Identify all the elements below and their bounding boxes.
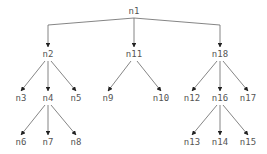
node-n9: n9 (103, 93, 114, 103)
node-n11: n11 (126, 49, 142, 59)
node-n7: n7 (43, 137, 54, 147)
node-n8: n8 (71, 137, 82, 147)
edge-n18-n17 (223, 61, 248, 91)
node-n18: n18 (212, 49, 228, 59)
edge-n11-n10 (137, 61, 161, 91)
node-n12: n12 (184, 93, 200, 103)
edge-n18-n12 (192, 61, 217, 91)
node-n13: n13 (184, 137, 200, 147)
tree-diagram: n1n2n11n18n3n4n5n9n10n12n16n17n6n7n8n13n… (0, 0, 267, 154)
edge-n16-n15 (223, 105, 248, 135)
edge-n2-n3 (21, 61, 45, 91)
node-n1: n1 (129, 6, 140, 16)
edge-n4-n8 (51, 105, 76, 135)
edge-n1-n2 (48, 18, 134, 47)
node-n17: n17 (240, 93, 256, 103)
node-n6: n6 (16, 137, 27, 147)
edges-layer (21, 18, 248, 135)
node-n15: n15 (240, 137, 256, 147)
node-n14: n14 (212, 137, 228, 147)
node-n2: n2 (43, 49, 54, 59)
edge-n1-n18 (134, 18, 220, 47)
node-n3: n3 (16, 93, 27, 103)
edge-n16-n13 (192, 105, 217, 135)
edge-n11-n9 (108, 61, 131, 91)
node-n5: n5 (71, 93, 82, 103)
node-n10: n10 (153, 93, 169, 103)
edge-n4-n6 (21, 105, 45, 135)
node-n4: n4 (43, 93, 54, 103)
node-n16: n16 (212, 93, 228, 103)
edge-n2-n5 (51, 61, 76, 91)
